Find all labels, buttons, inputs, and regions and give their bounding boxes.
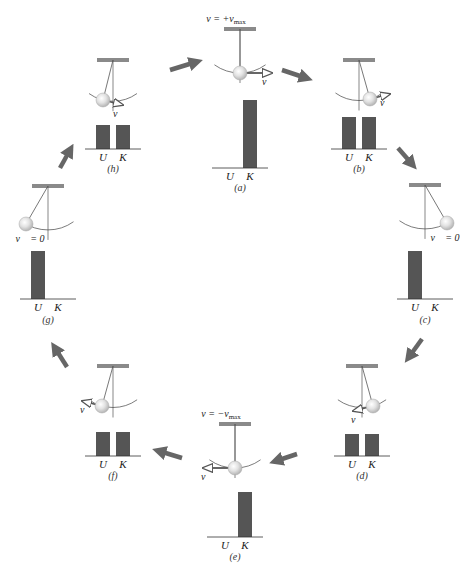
panel-f: v⃗UK(f)	[80, 364, 141, 482]
panel-caption: (h)	[107, 163, 119, 175]
cycle-arrow-b-to-c-icon	[398, 148, 412, 164]
kinetic-energy-bar	[243, 100, 257, 168]
potential-energy-bar	[342, 117, 356, 149]
velocity-label: v⃗	[201, 471, 213, 482]
panel-c: v⃗ = 0UK(c)	[397, 183, 459, 326]
panels: v = +vmaxv⃗UK(a)v⃗UK(b)v⃗ = 0UK(c)v⃗UK(d…	[16, 13, 460, 563]
panel-caption: (d)	[356, 470, 368, 482]
energy-bar-chart: UK	[334, 434, 390, 470]
panel-d: v⃗UK(d)	[334, 364, 390, 482]
kinetic-energy-bar	[116, 125, 130, 149]
panel-caption: (f)	[108, 470, 118, 482]
cycle-arrow-c-to-d-icon	[409, 339, 422, 357]
cycle-arrow-g-to-h-icon	[60, 150, 70, 168]
energy-bar-chart: UK	[85, 125, 141, 163]
energy-bar-chart: UK	[85, 432, 141, 470]
potential-energy-bar	[345, 434, 359, 456]
panel-h: v⃗UK(h)	[85, 58, 141, 175]
pendulum-bob	[366, 399, 380, 413]
cycle-arrow-d-to-e-icon	[276, 454, 297, 461]
kinetic-energy-label: K	[364, 151, 373, 163]
kinetic-energy-label: K	[118, 458, 127, 470]
kinetic-energy-label: K	[118, 151, 127, 163]
kinetic-energy-label: K	[245, 170, 254, 182]
pendulum-bob	[19, 217, 33, 231]
kinetic-energy-bar	[238, 492, 252, 537]
pendulum-bob	[440, 216, 454, 230]
potential-energy-bar	[96, 125, 110, 149]
pendulum-bob	[228, 461, 242, 475]
panel-caption: (g)	[42, 314, 54, 326]
velocity-max-label: v = +vmax	[206, 13, 246, 26]
zero-velocity-label: v⃗ = 0	[431, 232, 460, 243]
pendulum-bob	[95, 399, 109, 413]
panel-caption: (b)	[353, 163, 365, 175]
panel-caption: (c)	[419, 314, 431, 326]
potential-energy-bar	[96, 432, 110, 456]
potential-energy-label: U	[221, 539, 230, 551]
velocity-label: v⃗	[351, 414, 363, 425]
energy-bar-chart: UK	[207, 492, 263, 551]
potential-energy-bar	[31, 251, 45, 299]
kinetic-energy-label: K	[430, 301, 439, 313]
panel-e: v = −vmaxv⃗UK(e)	[201, 408, 263, 563]
zero-velocity-label: v⃗ = 0	[16, 233, 45, 244]
panel-b: v⃗UK(b)	[331, 58, 392, 175]
cycle-arrow-f-to-g-icon	[55, 348, 67, 367]
cycle-arrow-a-to-b-icon	[282, 70, 306, 78]
velocity-label: v⃗	[80, 404, 92, 415]
potential-energy-label: U	[411, 301, 420, 313]
velocity-label: v⃗	[113, 108, 125, 119]
panel-caption: (e)	[229, 551, 241, 563]
pendulum-bob	[96, 93, 110, 107]
velocity-max-label: v = −vmax	[201, 408, 241, 421]
velocity-label: v⃗	[262, 76, 274, 87]
energy-bar-chart: UK	[331, 117, 387, 163]
pendulum-bob	[363, 92, 377, 106]
kinetic-energy-bar	[362, 117, 376, 149]
potential-energy-label: U	[99, 458, 108, 470]
kinetic-energy-label: K	[240, 539, 249, 551]
potential-energy-label: U	[99, 151, 108, 163]
energy-bar-chart: UK	[397, 251, 453, 313]
cycle-arrow-h-to-a-icon	[170, 62, 196, 70]
energy-bar-chart: UK	[20, 251, 76, 313]
pendulum-energy-cycle-diagram: v = +vmaxv⃗UK(a)v⃗UK(b)v⃗ = 0UK(c)v⃗UK(d…	[0, 0, 472, 569]
kinetic-energy-bar	[365, 434, 379, 456]
panel-a: v = +vmaxv⃗UK(a)	[206, 13, 274, 194]
potential-energy-label: U	[226, 170, 235, 182]
kinetic-energy-label: K	[367, 458, 376, 470]
potential-energy-label: U	[34, 301, 43, 313]
panel-g: v⃗ = 0UK(g)	[16, 184, 76, 326]
cycle-arrow-e-to-f-icon	[159, 451, 182, 458]
kinetic-energy-bar	[116, 432, 130, 456]
velocity-label: v⃗	[380, 97, 392, 108]
potential-energy-label: U	[345, 151, 354, 163]
potential-energy-label: U	[348, 458, 357, 470]
potential-energy-bar	[408, 251, 422, 299]
kinetic-energy-label: K	[53, 301, 62, 313]
energy-bar-chart: UK	[212, 100, 268, 182]
panel-caption: (a)	[234, 182, 246, 194]
pendulum-bob	[233, 66, 247, 80]
